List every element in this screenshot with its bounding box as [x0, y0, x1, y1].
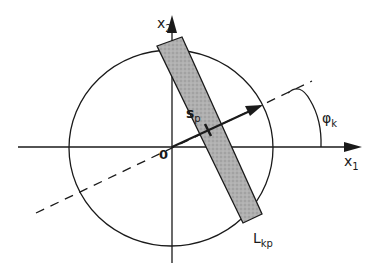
diagram-canvas: x2 x1 0 sp φk Lkp: [0, 0, 379, 277]
vector-sp-arrowhead-icon: [245, 105, 263, 116]
origin-label: 0: [159, 147, 168, 162]
angle-arc-phi: [288, 89, 321, 147]
x1-axis-arrowhead-icon: [344, 142, 362, 152]
x1-axis-label: x1: [344, 153, 359, 172]
angle-phi-label: φk: [322, 110, 337, 129]
strip-lkp-label: Lkp: [253, 230, 273, 249]
x2-axis-label: x2: [157, 15, 172, 34]
